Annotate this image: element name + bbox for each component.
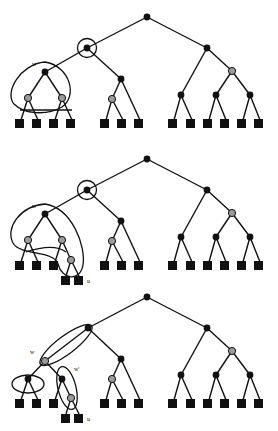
leaf [203, 261, 212, 270]
leaf [15, 119, 24, 128]
figure-canvas: w [0, 0, 278, 431]
node-w [42, 69, 49, 76]
node-gray-right [228, 67, 235, 74]
edge [88, 297, 147, 328]
edge [207, 190, 232, 213]
edge [174, 375, 181, 400]
node-root [144, 156, 151, 163]
leaf [134, 119, 143, 128]
edge [209, 237, 216, 262]
edge [181, 375, 192, 400]
edge [232, 351, 250, 375]
leaf [134, 399, 143, 408]
edge [250, 237, 260, 262]
edge [207, 48, 232, 71]
node-u [67, 394, 74, 401]
edge [28, 379, 38, 400]
edge [250, 95, 260, 120]
leaf [203, 119, 212, 128]
edge [28, 214, 45, 240]
node-gray-w-right [58, 236, 65, 243]
leaf [134, 261, 143, 270]
leaf [254, 261, 263, 270]
leaf [220, 119, 229, 128]
leaf [74, 414, 83, 423]
edge [87, 190, 121, 221]
edge [147, 297, 207, 328]
node-left-child [84, 45, 91, 52]
edge [181, 95, 192, 120]
edge [121, 221, 140, 262]
label-w-prime: w' [74, 366, 79, 372]
edge [28, 72, 45, 98]
edge [181, 190, 207, 237]
edge [181, 328, 207, 375]
leaf [186, 399, 195, 408]
leaf [220, 261, 229, 270]
edge [121, 79, 140, 120]
leaf [74, 276, 83, 285]
node-w [42, 211, 49, 218]
edges-middle [21, 159, 260, 276]
edge [216, 95, 226, 120]
leaf [168, 399, 177, 408]
node-right-child [204, 187, 211, 194]
tree-figure: w [0, 0, 278, 431]
edge [216, 213, 232, 237]
node-root [144, 14, 151, 21]
leaf [117, 261, 126, 270]
node-right-child [204, 45, 211, 52]
node-r2 [213, 92, 220, 99]
leaf [32, 261, 41, 270]
node-gray-w-left [24, 236, 31, 243]
leaf [254, 399, 263, 408]
leaves-top [15, 119, 263, 128]
panel-middle: w u [11, 156, 263, 285]
node-gray-mid [108, 95, 115, 102]
node-gray-right [228, 209, 235, 216]
leaf [15, 399, 24, 408]
label-w: w [32, 61, 37, 67]
label-u: u [87, 416, 90, 422]
leaf [61, 414, 70, 423]
panel-bottom: w w' u [12, 294, 263, 423]
nodes-bottom [25, 294, 254, 402]
edge [45, 214, 62, 240]
leaf [186, 261, 195, 270]
leaves-bottom [15, 399, 263, 423]
edge [209, 95, 216, 120]
edges-bottom [21, 297, 260, 414]
leaf [237, 261, 246, 270]
leaf [49, 261, 58, 270]
node-r3 [247, 92, 254, 99]
label-w: w [30, 349, 35, 355]
edge [209, 375, 216, 400]
leaf [32, 119, 41, 128]
leaf [168, 261, 177, 270]
node-r1 [178, 92, 185, 99]
leaf [220, 399, 229, 408]
leaf [61, 276, 70, 285]
leaf [117, 399, 126, 408]
leaf [32, 399, 41, 408]
edge [216, 237, 226, 262]
edges-top [21, 17, 260, 120]
edge [243, 237, 250, 262]
edge [181, 48, 207, 95]
edge [232, 213, 250, 237]
node-left-child [85, 325, 92, 332]
node-w [41, 357, 48, 364]
edge [45, 48, 87, 72]
node-r2 [213, 234, 220, 241]
node-r1 [178, 372, 185, 379]
edge [216, 351, 232, 375]
node-left-child [84, 187, 91, 194]
blob-around-subtree-w [11, 62, 70, 113]
leaf [66, 119, 75, 128]
node-right-child [204, 325, 211, 332]
node-mid [118, 76, 125, 83]
edge [88, 328, 121, 359]
leaf [100, 119, 109, 128]
node-w-prime [59, 376, 66, 383]
edge [87, 48, 121, 79]
